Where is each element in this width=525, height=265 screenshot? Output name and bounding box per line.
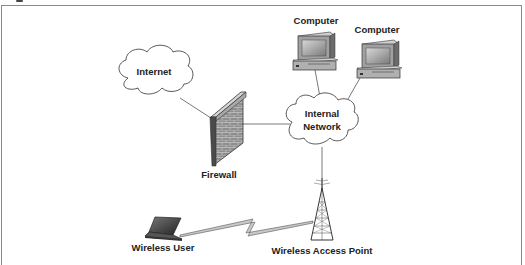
internet-label: Internet [137, 66, 173, 77]
wireless-access-point-label: Wireless Access Point [272, 245, 374, 256]
internal-network-label-line1: Internal [305, 108, 339, 119]
firewall-node: Firewall [201, 92, 246, 180]
wireless-access-point-node: Wireless Access Point [272, 178, 374, 256]
laptop-icon [145, 217, 182, 241]
radio-tower-icon [311, 178, 333, 240]
edge-internet-firewall [180, 98, 214, 120]
edge-internal-network-computer-1 [315, 70, 320, 97]
internet-node: Internet [119, 45, 193, 94]
brick-wall-icon [210, 92, 246, 166]
desktop-computer-icon [293, 32, 338, 70]
computer-1-label: Computer [294, 15, 339, 26]
computer-2-node: Computer [355, 24, 402, 78]
computer-2-label: Computer [355, 24, 400, 35]
internal-network-node: Internal Network [286, 93, 358, 144]
computer-1-node: Computer [293, 15, 339, 70]
internal-network-label-line2: Network [303, 121, 341, 132]
firewall-label: Firewall [201, 169, 236, 180]
wireless-link [180, 219, 313, 237]
edge-internal-network-computer-2 [348, 78, 360, 99]
wireless-user-label: Wireless User [132, 242, 195, 253]
lightning-bolt-icon [180, 219, 313, 237]
desktop-computer-icon [357, 40, 402, 78]
